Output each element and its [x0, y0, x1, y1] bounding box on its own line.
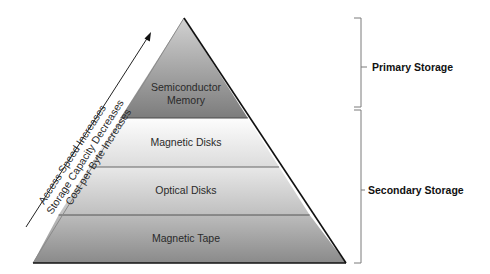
secondary-storage-label: Secondary Storage	[368, 184, 464, 196]
secondary-storage-bracket: Secondary Storage	[354, 110, 464, 263]
layer-label-magnetic-disks: Magnetic Disks	[150, 136, 221, 148]
layer-label-optical-disks: Optical Disks	[155, 184, 216, 196]
storage-hierarchy-diagram: Semiconductor Memory Magnetic Disks Opti…	[0, 0, 490, 274]
layer-label-memory: Memory	[167, 94, 206, 106]
primary-storage-label: Primary Storage	[372, 61, 453, 73]
layer-label-semiconductor: Semiconductor	[151, 81, 222, 93]
layer-label-magnetic-tape: Magnetic Tape	[152, 232, 220, 244]
primary-storage-bracket: Primary Storage	[354, 18, 453, 107]
